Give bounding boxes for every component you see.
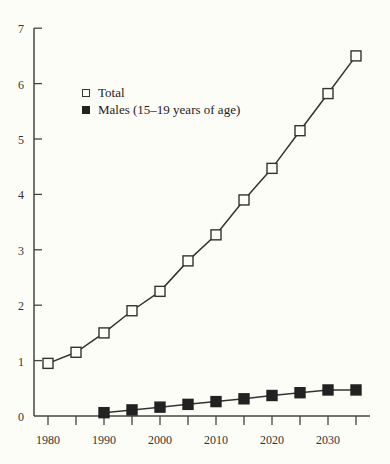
filled-square-marker — [211, 397, 221, 407]
filled-square-marker — [239, 394, 249, 404]
open-square-marker — [295, 126, 305, 136]
legend-item-total: Total — [82, 84, 240, 101]
legend-item-males: Males (15–19 years of age) — [82, 101, 240, 118]
filled-square-marker — [351, 385, 361, 395]
filled-square-marker — [183, 399, 193, 409]
y-tick-label: 4 — [18, 188, 24, 202]
y-tick-label: 3 — [18, 244, 24, 258]
filled-square-marker — [155, 402, 165, 412]
filled-square-marker — [323, 385, 333, 395]
legend-label-total: Total — [98, 84, 125, 101]
series-line — [104, 390, 356, 413]
x-tick-label: 1990 — [92, 433, 116, 447]
x-tick-label: 1980 — [36, 433, 60, 447]
x-tick-label: 2000 — [148, 433, 172, 447]
y-tick-label: 0 — [18, 410, 24, 424]
open-square-marker — [211, 230, 221, 240]
x-tick-label: 2020 — [260, 433, 284, 447]
open-square-icon — [82, 89, 90, 97]
filled-square-marker — [295, 388, 305, 398]
x-tick-label: 2010 — [204, 433, 228, 447]
legend: Total Males (15–19 years of age) — [82, 84, 240, 118]
y-tick-label: 6 — [18, 78, 24, 92]
filled-square-marker — [127, 405, 137, 415]
open-square-marker — [71, 347, 81, 357]
y-tick-label: 7 — [18, 22, 24, 36]
open-square-marker — [239, 195, 249, 205]
filled-square-marker — [99, 408, 109, 418]
open-square-marker — [183, 256, 193, 266]
y-tick-label: 1 — [18, 355, 24, 369]
open-square-marker — [99, 328, 109, 338]
line-chart: 01234567198019902000201020202030 — [0, 0, 390, 464]
open-square-marker — [155, 286, 165, 296]
filled-square-icon — [82, 106, 90, 114]
legend-label-males: Males (15–19 years of age) — [98, 101, 240, 118]
open-square-marker — [43, 358, 53, 368]
open-square-marker — [127, 306, 137, 316]
x-tick-label: 2030 — [316, 433, 340, 447]
y-tick-label: 5 — [18, 133, 24, 147]
y-tick-label: 2 — [18, 299, 24, 313]
filled-square-marker — [267, 391, 277, 401]
open-square-marker — [323, 89, 333, 99]
open-square-marker — [351, 51, 361, 61]
open-square-marker — [267, 163, 277, 173]
